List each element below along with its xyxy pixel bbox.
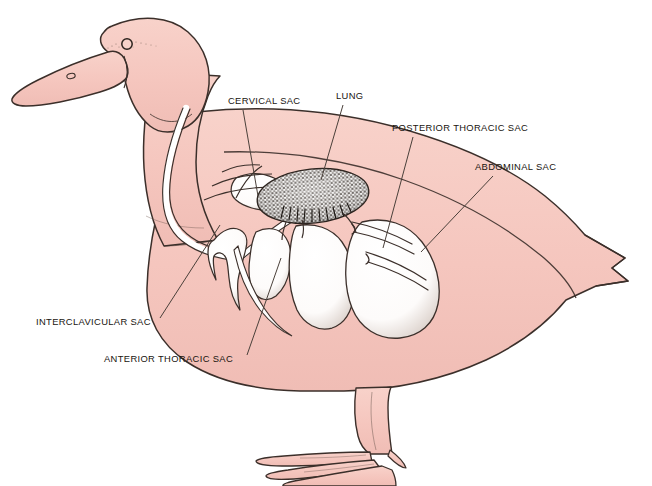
eye-icon <box>122 39 132 49</box>
foot-hind-toe <box>388 450 406 468</box>
diagram-canvas: CERVICAL SAC LUNG POSTERIOR THORACIC SAC… <box>0 0 652 486</box>
label-interclavicular-sac: INTERCLAVICULAR SAC <box>36 316 151 327</box>
label-abdominal-sac: ABDOMINAL SAC <box>475 161 556 172</box>
label-lung: LUNG <box>336 90 363 101</box>
duck-leg-foot-group <box>256 387 406 486</box>
label-posterior-thoracic-sac: POSTERIOR THORACIC SAC <box>392 122 528 133</box>
duck-leg-shape <box>355 387 392 454</box>
label-cervical-sac: CERVICAL SAC <box>228 95 300 106</box>
anatomical-diagram-duck-respiratory-system: CERVICAL SAC LUNG POSTERIOR THORACIC SAC… <box>0 0 652 486</box>
label-anterior-thoracic-sac: ANTERIOR THORACIC SAC <box>104 353 233 364</box>
